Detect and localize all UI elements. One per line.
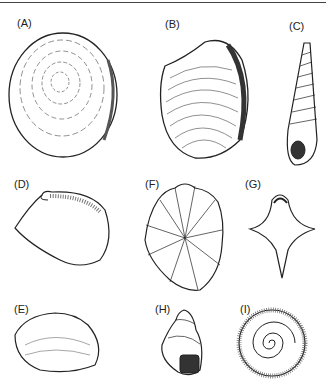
shell-g-icon [250,195,315,278]
shell-b-icon [161,40,248,158]
shell-illustrations [0,0,329,385]
shell-h-icon [162,310,202,375]
shell-c-icon [287,43,317,165]
shell-f-icon [145,184,223,290]
shell-a-icon [9,33,117,157]
shell-i-icon [239,310,305,376]
shell-d-icon [15,191,109,265]
shell-e-icon [15,313,99,372]
